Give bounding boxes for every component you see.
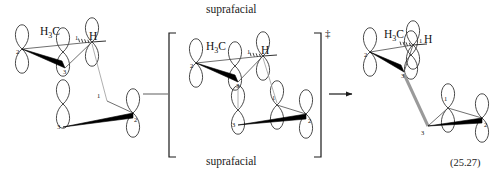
product-num-3-upper: 3 — [401, 73, 404, 80]
product-num-3-lower: 3 — [421, 130, 424, 137]
label-suprafacial-bottom: suprafacial — [206, 156, 256, 168]
reactant-num-2-lower: 2 — [134, 117, 137, 124]
ts-methyl-label: H3C — [206, 41, 226, 55]
ts-hydrogen-label: H — [261, 45, 269, 57]
ts-num-2-upper: 2 — [190, 63, 193, 70]
reactant-hydrogen-label: H — [89, 31, 97, 43]
ts-num-1-lower: 1 — [272, 95, 275, 102]
ts-num-1-upper: 1 — [247, 49, 250, 56]
product-num-1-upper: 1 — [419, 38, 422, 45]
reactant-num-2-upper: 2 — [16, 49, 19, 56]
reactant-num-1-upper: 1 — [75, 35, 78, 42]
reactant-num-1-lower: 1 — [97, 93, 100, 100]
reactant-num-3-upper: 3 — [63, 69, 66, 76]
product-methyl-c: C — [396, 28, 404, 40]
reactant-num-3-lower: 3 — [57, 124, 60, 131]
bracket-right — [314, 33, 321, 157]
methyl-c: C — [52, 25, 60, 37]
reactant-lower-fragment — [56, 44, 139, 137]
product-num-2-upper: 2 — [364, 52, 367, 59]
ts-methyl-c: C — [218, 40, 226, 52]
ts-num-3-lower: 3 — [232, 122, 235, 129]
figure-canvas: suprafacial suprafacial (25.27) ‡ H3C H … — [0, 0, 502, 178]
equation-number: (25.27) — [450, 158, 481, 169]
product-num-1-lower: 1 — [444, 96, 447, 103]
reactant-methyl-label: H3C — [40, 26, 60, 40]
product-lower-fragment — [428, 84, 489, 142]
product-hydrogen-label: H — [424, 34, 432, 46]
ts-num-2-lower: 2 — [308, 118, 311, 125]
bracket-left — [169, 33, 176, 157]
product-num-2-lower: 2 — [484, 122, 487, 129]
product-methyl-label: H3C — [384, 29, 404, 43]
label-suprafacial-top: suprafacial — [206, 4, 256, 16]
ts-num-3-upper: 3 — [236, 83, 239, 90]
forming-sigma-bond — [404, 74, 428, 126]
double-dagger-marker: ‡ — [325, 28, 331, 39]
reaction-scheme-svg — [0, 0, 502, 178]
